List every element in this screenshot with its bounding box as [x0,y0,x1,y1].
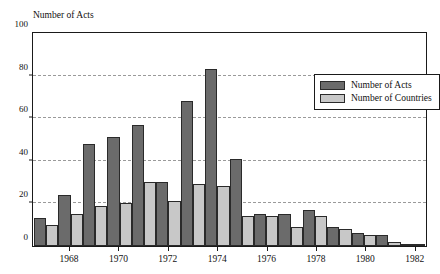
bar-countries-1969 [95,206,107,246]
chart-legend: Number of Acts Number of Countries [314,74,440,110]
legend-item-acts: Number of Acts [320,79,432,92]
x-tick-label-1972: 1972 [158,254,177,265]
bar-acts-1969 [83,144,95,246]
bar-acts-1968 [58,195,70,246]
x-tick-mark-1976 [267,247,268,251]
bar-acts-1971 [132,125,144,246]
bar-acts-1970 [107,137,119,246]
plot-area: 020406080100 Number of Acts Number of Co… [32,32,427,247]
x-axis: 19681970197219741976197819801982 [32,247,427,273]
x-tick-label-1982: 1982 [405,254,424,265]
bar-countries-1977 [291,227,303,246]
x-tick-mark-1978 [316,247,317,251]
x-tick-mark-1970 [118,247,119,251]
x-tick-label-1980: 1980 [356,254,375,265]
legend-label-countries: Number of Countries [351,93,432,104]
bar-countries-1976 [266,216,278,246]
y-tick-label-0: 0 [24,233,29,242]
x-tick-label-1970: 1970 [109,254,128,265]
bar-group [254,33,278,246]
x-tick-mark-1972 [168,247,169,251]
bar-groups [33,33,426,246]
bar-countries-1980 [364,235,376,246]
legend-swatch-acts-icon [320,81,345,90]
x-tick-label-1976: 1976 [257,254,276,265]
bar-countries-1982 [413,244,425,246]
bar-group [401,33,425,246]
y-axis-title: Number of Acts [33,9,94,21]
bar-acts-1975 [230,159,242,246]
y-tick-label-60: 60 [19,105,28,114]
bar-group [278,33,302,246]
bar-group [83,33,107,246]
bar-group [230,33,254,246]
bar-acts-1979 [327,227,339,246]
bar-countries-1978 [315,216,327,246]
bar-group [352,33,376,246]
bar-countries-1971 [144,182,156,246]
bar-group [303,33,327,246]
bar-acts-1974 [205,69,217,246]
x-tick-label-1978: 1978 [306,254,325,265]
bar-countries-1981 [388,242,400,246]
bar-acts-1977 [278,214,290,246]
bar-acts-1980 [352,233,364,246]
bar-acts-1976 [254,214,266,246]
bar-group [107,33,131,246]
bar-group [181,33,205,246]
legend-swatch-countries-icon [320,94,345,103]
bar-group [205,33,229,246]
bar-countries-1972 [168,201,180,246]
bar-countries-1979 [339,229,351,246]
x-tick-mark-1968 [69,247,70,251]
y-tick-label-40: 40 [19,147,28,156]
y-tick-label-100: 100 [15,20,29,29]
x-tick-label-1974: 1974 [208,254,227,265]
legend-label-acts: Number of Acts [351,80,412,91]
bar-acts-1967 [34,218,46,246]
bar-group [132,33,156,246]
bar-acts-1973 [181,101,193,246]
bar-countries-1973 [193,184,205,246]
legend-item-countries: Number of Countries [320,92,432,105]
bar-acts-1972 [156,182,168,246]
bar-group [376,33,400,246]
bar-group [58,33,82,246]
x-tick-mark-1982 [415,247,416,251]
bar-countries-1967 [46,225,58,246]
bar-acts-1978 [303,210,315,246]
x-tick-label-1968: 1968 [60,254,79,265]
bar-acts-1981 [376,235,388,246]
bar-acts-1982 [401,244,413,246]
bar-group [327,33,351,246]
bar-countries-1975 [242,216,254,246]
bar-group [34,33,58,246]
y-tick-label-20: 20 [19,190,28,199]
bar-countries-1974 [217,186,229,246]
x-tick-mark-1980 [365,247,366,251]
bar-group [156,33,180,246]
bar-countries-1968 [71,214,83,246]
bar-countries-1970 [120,203,132,246]
plot-inner: 020406080100 [33,33,426,246]
x-tick-mark-1974 [217,247,218,251]
y-tick-label-80: 80 [19,62,28,71]
